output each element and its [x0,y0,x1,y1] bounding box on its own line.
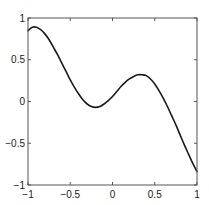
y-tick-label: −0.5 [5,138,25,149]
y-tick-label: 0.5 [11,54,25,65]
x-tick-label: 0 [110,189,116,200]
x-tick-label: −0.5 [60,189,80,200]
x-tick-label: 0.5 [148,189,162,200]
x-tick-label: −1 [22,189,34,200]
y-tick-label: 0 [19,96,25,107]
x-tick-label: 1 [194,189,200,200]
plot-area [28,18,197,185]
y-tick-label: −1 [14,180,26,191]
line-chart: −1−0.500.51−1−0.500.51 [0,0,209,205]
y-tick-label: 1 [19,13,25,24]
